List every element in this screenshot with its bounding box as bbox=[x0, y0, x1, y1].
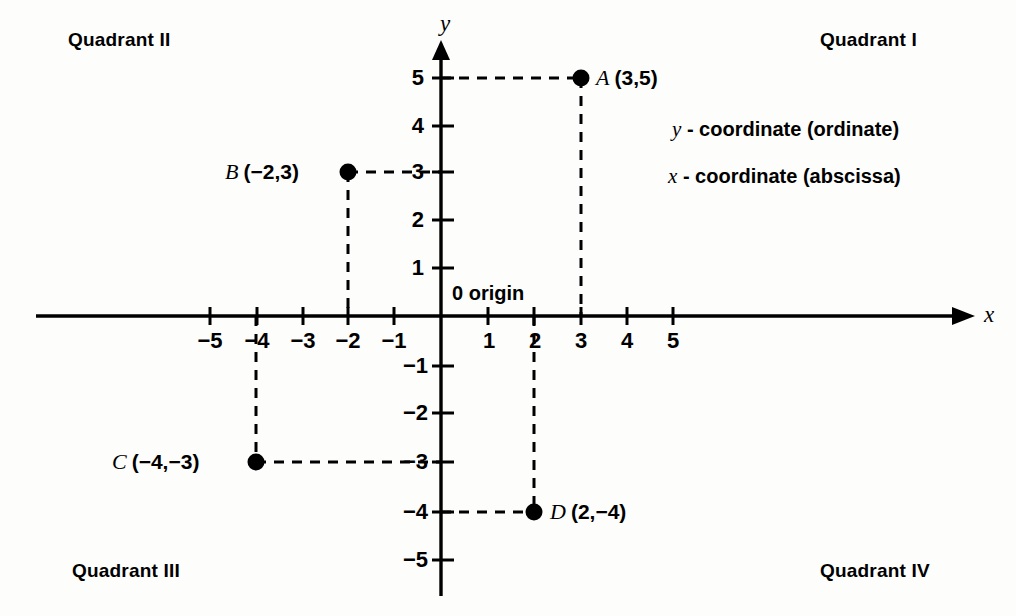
quadrant-3-label: Quadrant III bbox=[72, 561, 180, 580]
point-label-d: D(2,−4) bbox=[550, 501, 626, 523]
legend-abscissa: x - coordinate (abscissa) bbox=[668, 166, 901, 187]
projection-lines-point-b bbox=[348, 172, 441, 316]
coordinate-plane-svg bbox=[0, 0, 1016, 616]
y-tick-label-5: 5 bbox=[412, 67, 424, 89]
point-marker-c[interactable] bbox=[248, 454, 265, 471]
point-letter-c: C bbox=[112, 449, 132, 474]
legend-abscissa-text: - coordinate (abscissa) bbox=[677, 165, 900, 187]
point-letter-b: B bbox=[225, 159, 243, 184]
x-tick-label--2: −2 bbox=[335, 330, 360, 352]
coordinate-plane-figure: Quadrant II Quadrant I Quadrant III Quad… bbox=[0, 0, 1016, 616]
point-label-b: B(−2,3) bbox=[225, 161, 299, 183]
projection-lines-point-a bbox=[441, 78, 581, 316]
x-tick-label--3: −3 bbox=[290, 330, 315, 352]
legend-ordinate: y - coordinate (ordinate) bbox=[672, 119, 899, 140]
origin-label: 0 origin bbox=[452, 283, 524, 303]
point-letter-a: A bbox=[596, 65, 614, 90]
y-axis-ticks bbox=[432, 78, 454, 560]
y-tick-label--2: −2 bbox=[403, 402, 428, 424]
point-label-a: A(3,5) bbox=[596, 67, 658, 89]
point-marker-b[interactable] bbox=[340, 164, 357, 181]
x-tick-label--4: −4 bbox=[244, 330, 269, 352]
y-tick-label-2: 2 bbox=[412, 209, 424, 231]
y-tick-label--1: −1 bbox=[403, 355, 428, 377]
y-tick-label--4: −4 bbox=[403, 501, 428, 523]
point-coords-d: (2,−4) bbox=[571, 500, 626, 523]
x-axis-name-label: x bbox=[984, 303, 994, 326]
y-tick-label--5: −5 bbox=[403, 549, 428, 571]
x-axis bbox=[36, 307, 975, 325]
y-tick-label-1: 1 bbox=[412, 257, 424, 279]
x-tick-label--1: −1 bbox=[381, 330, 406, 352]
point-marker-d[interactable] bbox=[526, 504, 543, 521]
quadrant-1-label: Quadrant I bbox=[820, 30, 917, 49]
x-tick-label-4: 4 bbox=[621, 330, 633, 352]
legend-abscissa-var: x bbox=[668, 164, 677, 188]
x-tick-label-1: 1 bbox=[483, 330, 495, 352]
y-axis-name-label: y bbox=[440, 12, 450, 35]
y-tick-label-3: 3 bbox=[412, 161, 424, 183]
y-tick-label-4: 4 bbox=[412, 115, 424, 137]
legend-ordinate-text: - coordinate (ordinate) bbox=[681, 118, 899, 140]
point-coords-b: (−2,3) bbox=[243, 160, 298, 183]
point-coords-a: (3,5) bbox=[614, 66, 657, 89]
x-tick-label-2: 2 bbox=[529, 330, 541, 352]
x-tick-label--5: −5 bbox=[197, 330, 222, 352]
point-coords-c: (−4,−3) bbox=[132, 450, 200, 473]
x-tick-label-3: 3 bbox=[575, 330, 587, 352]
point-label-c: C(−4,−3) bbox=[112, 451, 199, 473]
x-tick-label-5: 5 bbox=[667, 330, 679, 352]
y-tick-label--3: −3 bbox=[403, 451, 428, 473]
quadrant-4-label: Quadrant IV bbox=[820, 561, 930, 580]
legend-ordinate-var: y bbox=[672, 117, 681, 141]
quadrant-2-label: Quadrant II bbox=[68, 30, 171, 49]
point-marker-a[interactable] bbox=[573, 70, 590, 87]
point-letter-d: D bbox=[550, 499, 571, 524]
